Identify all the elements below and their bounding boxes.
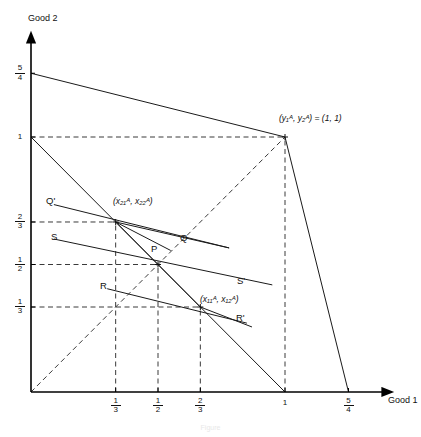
label-bundle-1: (x₁₁ᴬ, x₁₂ᴬ) [200, 295, 239, 304]
label-Q: Q [180, 233, 187, 243]
series-production-frontier-lower [285, 137, 349, 392]
figure-canvas [0, 0, 421, 437]
x-tick-label: 1 [277, 399, 293, 407]
series-chord-bundle2-Q [116, 222, 229, 248]
marker-endowment [282, 134, 288, 140]
y-tick-label: 54 [12, 64, 28, 82]
label-P: P [151, 244, 157, 254]
x-tick-label: 13 [108, 397, 124, 415]
label-S-prime: S' [237, 276, 245, 286]
x-tick-label: 54 [341, 397, 357, 415]
axis-lines [31, 42, 383, 392]
x-tick-label: 23 [192, 397, 208, 415]
y-tick-label: 23 [12, 213, 28, 231]
y-axis-title: Good 2 [28, 14, 58, 23]
y-tick-label: 1 [12, 133, 28, 141]
label-endowment: (y₁ᴬ, y₂ᴬ) = (1, 1) [279, 114, 342, 123]
series-ray-P-bundle1 [158, 265, 200, 308]
series-production-frontier-upper [31, 73, 285, 137]
label-S: S [51, 232, 57, 242]
economics-figure: Good 2 Good 1 Q' S Q P S' R R' (x₂₁ᴬ, x₂… [0, 0, 421, 437]
label-R-prime: R' [236, 313, 245, 323]
label-bundle-2: (x₂₁ᴬ, x₂₂ᴬ) [113, 197, 153, 206]
label-R: R [100, 281, 107, 291]
y-tick-label: 12 [12, 256, 28, 274]
figure-caption: Figure [0, 424, 421, 431]
x-axis-title: Good 1 [388, 396, 418, 405]
label-Q-prime: Q' [46, 196, 55, 206]
x-tick-label: 12 [150, 397, 166, 415]
y-tick-label: 13 [12, 298, 28, 316]
